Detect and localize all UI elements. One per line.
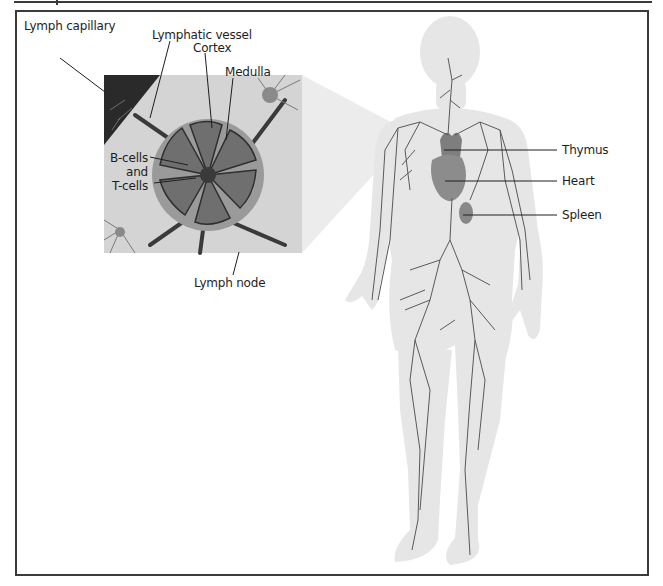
label-lymph-node: Lymph node bbox=[194, 276, 265, 290]
label-spleen: Spleen bbox=[562, 208, 602, 222]
label-t-cells: T-cells bbox=[100, 179, 148, 193]
thymus-organ bbox=[440, 133, 462, 158]
label-thymus: Thymus bbox=[562, 143, 608, 157]
label-cortex: Cortex bbox=[193, 41, 231, 55]
human-body bbox=[345, 16, 543, 565]
label-lymph-capillary: Lymph capillary bbox=[24, 19, 115, 33]
label-b-cells: B-cells bbox=[100, 151, 148, 165]
spleen-organ bbox=[459, 202, 473, 224]
label-b-t-cells: B-cells and T-cells bbox=[100, 151, 148, 193]
label-medulla: Medulla bbox=[225, 65, 271, 79]
label-and: and bbox=[100, 165, 148, 179]
lymphatic-illustration bbox=[0, 0, 663, 586]
label-lymphatic-vessel: Lymphatic vessel bbox=[152, 28, 252, 42]
label-heart: Heart bbox=[562, 174, 594, 188]
